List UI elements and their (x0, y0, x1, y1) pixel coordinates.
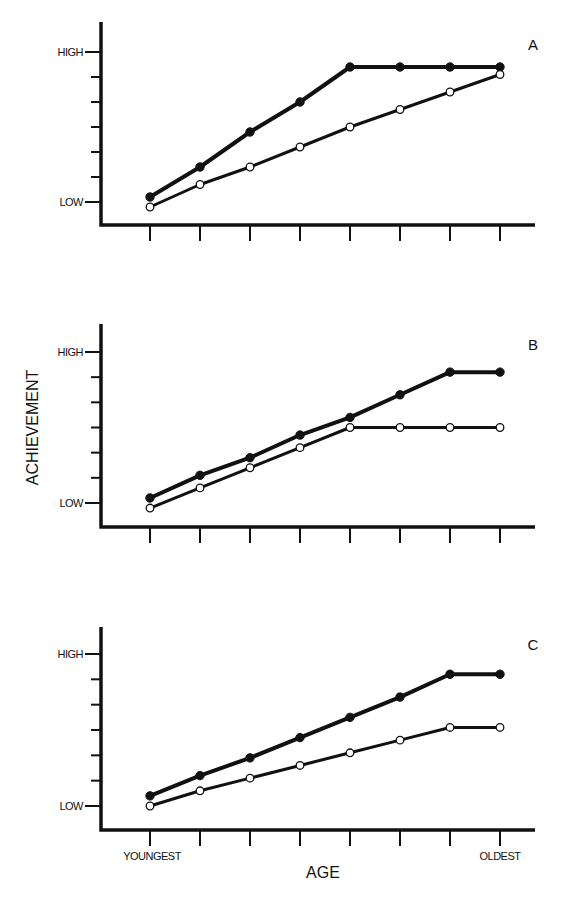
axes (101, 22, 535, 225)
data-point-open (246, 774, 254, 782)
data-point-filled (246, 754, 254, 762)
y-tick-label-high: HIGH (58, 648, 84, 660)
data-point-filled (296, 431, 304, 439)
data-point-filled (146, 792, 154, 800)
data-point-open (146, 203, 154, 211)
data-point-open (246, 163, 254, 171)
y-tick-label-low: LOW (59, 196, 84, 208)
x-axis-title: AGE (306, 864, 340, 881)
data-point-filled (196, 163, 204, 171)
x-tick-label-last: OLDEST (479, 850, 521, 862)
series-line-filled (150, 67, 500, 197)
y-tick-label-low: LOW (59, 800, 84, 812)
data-point-open (446, 424, 454, 432)
y-axis-title: ACHIEVEMENT (24, 369, 41, 485)
data-point-open (346, 123, 354, 131)
data-point-open (196, 484, 204, 492)
data-point-open (396, 736, 404, 744)
data-point-open (496, 424, 504, 432)
data-point-open (196, 181, 204, 189)
data-point-filled (396, 391, 404, 399)
data-point-open (296, 143, 304, 151)
data-point-open (496, 71, 504, 79)
data-point-open (296, 444, 304, 452)
data-point-open (346, 424, 354, 432)
panel-a: LOWHIGHA (58, 22, 539, 241)
data-point-filled (196, 471, 204, 479)
data-point-filled (196, 771, 204, 779)
data-point-filled (396, 693, 404, 701)
data-point-open (496, 724, 504, 732)
data-point-filled (396, 63, 404, 71)
panel-c: LOWHIGHCYOUNGESTOLDESTAGE (58, 627, 539, 881)
panel-label: A (528, 36, 538, 53)
data-point-filled (146, 193, 154, 201)
data-point-open (346, 749, 354, 757)
y-tick-label-low: LOW (59, 497, 84, 509)
panel-label: B (528, 336, 538, 353)
achievement-by-age-charts: LOWHIGHALOWHIGHBACHIEVEMENTLOWHIGHCYOUNG… (0, 0, 567, 900)
y-tick-label-high: HIGH (58, 346, 84, 358)
axes (101, 324, 535, 527)
data-point-filled (446, 63, 454, 71)
data-point-open (446, 724, 454, 732)
data-point-open (146, 504, 154, 512)
data-point-filled (246, 128, 254, 136)
panel-label: C (528, 636, 539, 653)
data-point-filled (146, 494, 154, 502)
data-point-filled (246, 454, 254, 462)
data-point-filled (296, 733, 304, 741)
data-point-open (296, 762, 304, 770)
data-point-filled (346, 63, 354, 71)
data-point-filled (296, 98, 304, 106)
y-tick-label-high: HIGH (58, 46, 84, 58)
data-point-filled (446, 670, 454, 678)
panel-b: LOWHIGHBACHIEVEMENT (24, 324, 538, 543)
data-point-filled (346, 713, 354, 721)
data-point-filled (496, 368, 504, 376)
data-point-filled (346, 413, 354, 421)
series-line-open (150, 428, 500, 509)
data-point-filled (446, 368, 454, 376)
data-point-filled (496, 63, 504, 71)
data-point-open (146, 802, 154, 810)
x-tick-label-first: YOUNGEST (123, 850, 182, 862)
data-point-open (396, 106, 404, 114)
data-point-open (396, 424, 404, 432)
data-point-open (196, 787, 204, 795)
data-point-open (246, 464, 254, 472)
data-point-open (446, 88, 454, 96)
data-point-filled (496, 670, 504, 678)
